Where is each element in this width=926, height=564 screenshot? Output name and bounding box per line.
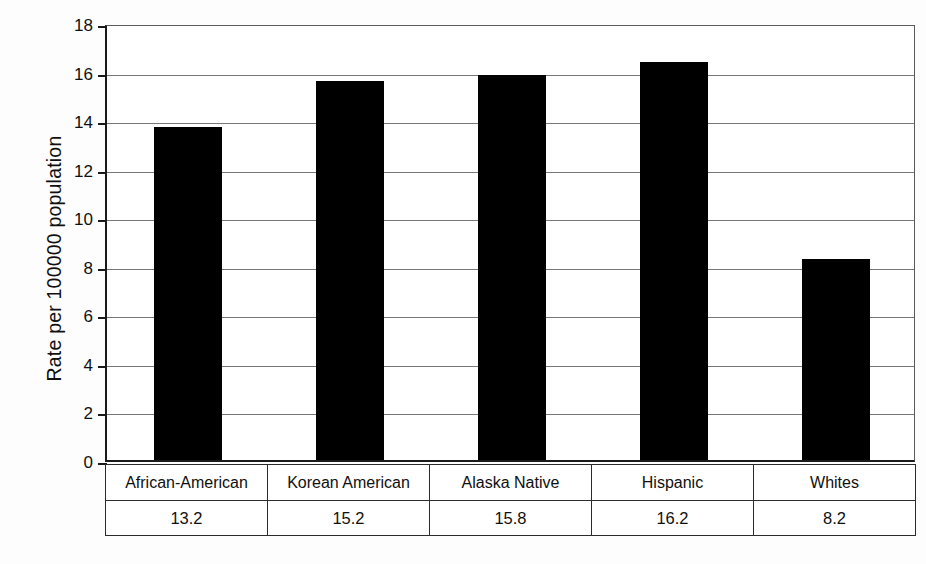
bar-chart-figure: Rate per 100000 population 0246810121416…	[0, 0, 926, 564]
y-axis-tick-label: 4	[84, 356, 93, 376]
y-axis-tick-label: 2	[84, 404, 93, 424]
table-row-categories: African-AmericanKorean AmericanAlaska Na…	[106, 465, 916, 501]
table-row-values: 13.215.215.816.28.2	[106, 501, 916, 536]
bar	[802, 259, 870, 461]
tick-mark	[98, 220, 107, 222]
tick-mark	[98, 366, 107, 368]
y-axis-tick-label: 16	[74, 65, 93, 85]
tick-mark	[98, 269, 107, 271]
tick-mark	[98, 75, 107, 77]
table-cell-value: 15.2	[268, 501, 430, 536]
y-axis-title: Rate per 100000 population	[43, 59, 66, 459]
table-cell-value: 16.2	[592, 501, 754, 536]
y-axis-tick-label: 0	[84, 453, 93, 473]
bar	[154, 127, 222, 460]
table-cell-value: 8.2	[754, 501, 916, 536]
data-table: African-AmericanKorean AmericanAlaska Na…	[105, 464, 916, 536]
tick-mark	[98, 317, 107, 319]
table-cell-category: Hispanic	[592, 465, 754, 501]
y-axis-tick-label: 12	[74, 162, 93, 182]
plot-area: 024681012141618	[105, 25, 915, 462]
tick-mark	[98, 123, 107, 125]
bar	[640, 62, 708, 460]
bar	[478, 75, 546, 460]
y-axis-tick-label: 6	[84, 307, 93, 327]
y-axis-tick-label: 18	[74, 16, 93, 36]
tick-mark	[98, 26, 107, 28]
table-cell-value: 15.8	[430, 501, 592, 536]
table-cell-category: Alaska Native	[430, 465, 592, 501]
y-axis-tick-label: 8	[84, 259, 93, 279]
tick-mark	[98, 414, 107, 416]
y-axis-tick-label: 14	[74, 113, 93, 133]
table-cell-category: Whites	[754, 465, 916, 501]
table-cell-category: Korean American	[268, 465, 430, 501]
tick-mark	[98, 172, 107, 174]
table-cell-value: 13.2	[106, 501, 268, 536]
table-cell-category: African-American	[106, 465, 268, 501]
bar	[316, 81, 384, 460]
y-axis-tick-label: 10	[74, 210, 93, 230]
